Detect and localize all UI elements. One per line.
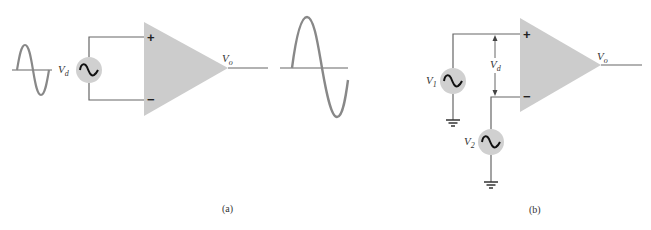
vo-label-a: Vo <box>222 52 233 67</box>
input-sine-waveform <box>12 45 52 95</box>
plus-sign-b: + <box>523 27 531 42</box>
op-amp-differential-input-figure: Vd + − Vo (a) <box>0 0 651 230</box>
op-amp-triangle-a <box>144 22 228 116</box>
ac-source-vd <box>76 57 102 83</box>
plus-sign-a: + <box>147 30 155 45</box>
ac-source-v1 <box>440 68 466 94</box>
ground-icon <box>484 182 498 188</box>
ground-icon <box>446 120 460 126</box>
panel-b: Vd V1 V2 + − Vo (b) <box>426 18 642 216</box>
op-amp-triangle-b <box>520 18 601 112</box>
panel-a: Vd + − Vo (a) <box>12 17 348 215</box>
v2-label: V2 <box>464 135 475 150</box>
vo-label-b: Vo <box>597 50 608 65</box>
v1-label: V1 <box>426 74 437 89</box>
vd-label-b: Vd <box>490 58 502 73</box>
output-sine-waveform <box>280 17 348 117</box>
input-wires-b <box>453 34 521 182</box>
minus-sign-a: − <box>147 92 155 107</box>
vd-label-a: Vd <box>58 63 70 78</box>
caption-a: (a) <box>222 203 233 215</box>
ac-source-v2 <box>478 129 504 155</box>
minus-sign-b: − <box>523 89 531 104</box>
caption-b: (b) <box>529 204 541 216</box>
